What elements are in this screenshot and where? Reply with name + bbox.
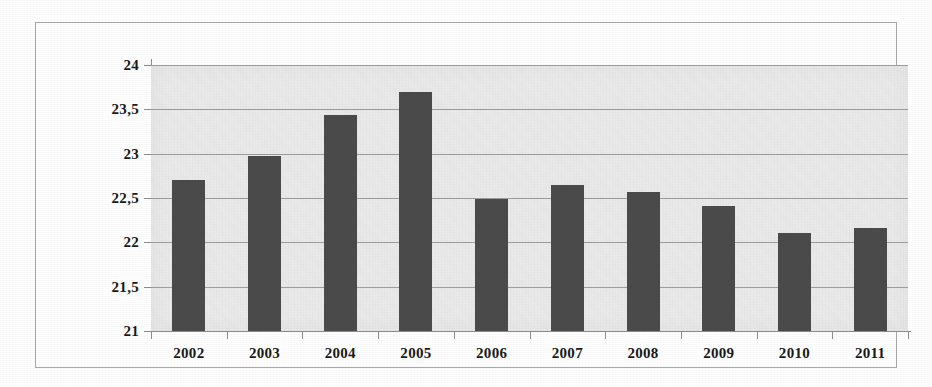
y-tick-label: 24 <box>123 57 139 74</box>
x-tick-mark <box>454 331 455 339</box>
gridline-23 <box>151 154 908 155</box>
bar <box>324 115 357 331</box>
x-tick-mark <box>378 331 379 339</box>
chart-frame: 2423,52322,52221,521 2002200320042005200… <box>35 22 897 368</box>
gridline-24 <box>151 65 908 66</box>
x-tick-mark <box>832 331 833 339</box>
x-tick-label: 2007 <box>552 345 583 362</box>
x-tick-mark <box>227 331 228 339</box>
gridline-23-5 <box>151 109 908 110</box>
x-tick-mark <box>908 331 909 339</box>
bar <box>172 180 205 331</box>
x-tick-label: 2011 <box>855 345 885 362</box>
x-tick-label: 2010 <box>779 345 810 362</box>
bar <box>778 233 811 331</box>
y-tick-label: 21 <box>123 323 139 340</box>
y-axis-labels: 2423,52322,52221,521 <box>36 23 139 367</box>
x-tick-label: 2003 <box>249 345 280 362</box>
bar <box>551 185 584 331</box>
x-tick-mark <box>757 331 758 339</box>
x-tick-mark <box>605 331 606 339</box>
x-tick-label: 2006 <box>476 345 507 362</box>
y-tick-label: 23 <box>123 145 139 162</box>
x-tick-mark <box>302 331 303 339</box>
bar <box>702 206 735 331</box>
y-tick-label: 21,5 <box>112 278 139 295</box>
x-tick-label: 2002 <box>173 345 204 362</box>
x-axis-line <box>151 331 911 332</box>
x-tick-label: 2008 <box>627 345 658 362</box>
x-tick-mark <box>530 331 531 339</box>
plot-area <box>151 65 908 331</box>
bar <box>854 228 887 331</box>
bar <box>248 156 281 331</box>
x-tick-label: 2004 <box>325 345 356 362</box>
x-tick-label: 2009 <box>703 345 734 362</box>
bar <box>627 192 660 331</box>
y-tick-label: 23,5 <box>112 101 139 118</box>
bar <box>475 199 508 331</box>
x-tick-mark <box>681 331 682 339</box>
bar <box>399 92 432 331</box>
y-tick-label: 22 <box>123 234 139 251</box>
x-tick-label: 2005 <box>400 345 431 362</box>
y-tick-label: 22,5 <box>112 190 139 207</box>
x-tick-mark <box>151 331 152 339</box>
